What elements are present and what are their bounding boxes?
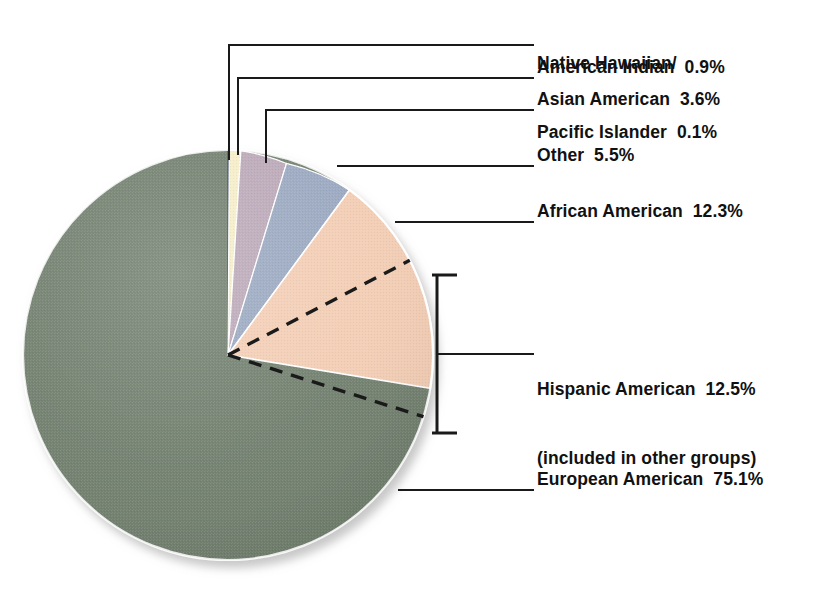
label-asian-american: Asian American 3.6%	[537, 88, 720, 111]
label-european-american: European American 75.1%	[537, 468, 763, 491]
hispanic-bracket	[432, 275, 534, 433]
leader-line-asian-american	[266, 110, 534, 163]
leader-line-american-indian	[238, 78, 534, 155]
label-native-hawaiian-line2: Pacific Islander 0.1%	[537, 121, 717, 144]
label-american-indian: American Indian 0.9%	[537, 56, 725, 79]
leader-line-native-hawaiian	[229, 45, 534, 160]
label-hispanic-line1: Hispanic American 12.5%	[537, 378, 756, 401]
pie-chart-figure: Native Hawaiian/ Pacific Islander 0.1% A…	[0, 0, 834, 591]
label-other: Other 5.5%	[537, 144, 634, 167]
label-hispanic-line2: (included in other groups)	[537, 447, 756, 470]
label-african-american: African American 12.3%	[537, 200, 743, 223]
